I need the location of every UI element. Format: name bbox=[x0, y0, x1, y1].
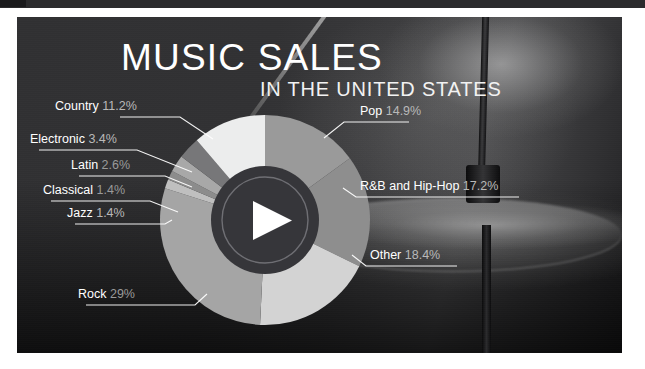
label-classical: Classical 1.4% bbox=[43, 184, 125, 200]
label-other-name: Other bbox=[370, 248, 401, 262]
label-rock: Rock 29% bbox=[78, 288, 135, 304]
label-country-percent: 11.2% bbox=[102, 99, 137, 113]
label-pop-percent: 14.9% bbox=[386, 104, 421, 118]
label-rnb: R&B and Hip-Hop 17.2% bbox=[360, 180, 498, 196]
label-jazz: Jazz 1.4% bbox=[67, 207, 125, 223]
top-bar-nub bbox=[0, 0, 26, 7]
top-bar bbox=[0, 0, 645, 8]
label-other-percent: 18.4% bbox=[405, 248, 440, 262]
label-rnb-name: R&B and Hip-Hop bbox=[360, 179, 459, 193]
infographic-panel: MUSIC SALES IN THE UNITED STATES bbox=[17, 17, 622, 353]
leader-line-country bbox=[120, 117, 213, 139]
infographic-stage: MUSIC SALES IN THE UNITED STATES bbox=[0, 0, 645, 369]
label-latin-name: Latin bbox=[71, 158, 98, 172]
label-pop: Pop 14.9% bbox=[360, 105, 421, 121]
label-jazz-percent: 1.4% bbox=[96, 206, 125, 220]
label-electronic-name: Electronic bbox=[30, 132, 85, 146]
label-latin-percent: 2.6% bbox=[102, 158, 131, 172]
label-other: Other 18.4% bbox=[370, 249, 440, 265]
label-electronic-percent: 3.4% bbox=[88, 132, 117, 146]
label-electronic: Electronic 3.4% bbox=[30, 133, 117, 149]
label-latin: Latin 2.6% bbox=[71, 159, 130, 175]
label-country-name: Country bbox=[55, 99, 99, 113]
label-country: Country 11.2% bbox=[55, 100, 137, 116]
label-rock-name: Rock bbox=[78, 287, 106, 301]
label-jazz-name: Jazz bbox=[67, 206, 93, 220]
label-rnb-percent: 17.2% bbox=[463, 179, 498, 193]
label-rock-percent: 29% bbox=[110, 287, 135, 301]
label-classical-name: Classical bbox=[43, 183, 93, 197]
label-classical-percent: 1.4% bbox=[97, 183, 126, 197]
label-pop-name: Pop bbox=[360, 104, 382, 118]
leader-line-pop bbox=[324, 122, 409, 138]
